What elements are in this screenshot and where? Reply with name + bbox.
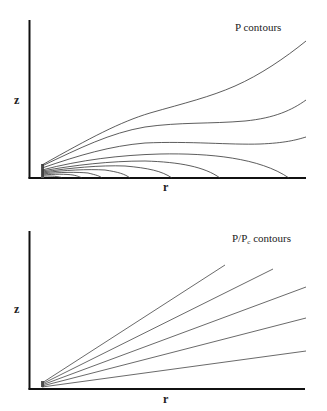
- z-axis-label: z: [14, 302, 19, 317]
- ray-1: [42, 265, 225, 383]
- ray-4: [42, 318, 306, 386]
- pc-contours-title: P/Pc contours: [232, 232, 291, 246]
- r-axis-label: r: [163, 392, 168, 407]
- title-rest: contours: [250, 232, 291, 244]
- ray-lines: [42, 265, 306, 387]
- ray-5: [42, 351, 306, 387]
- ray-2: [42, 269, 273, 384]
- ray-3: [42, 287, 306, 385]
- title-main: P/P: [232, 232, 247, 244]
- pc-contours-panel: P/Pc contours z r: [0, 0, 327, 411]
- pc-contours-plot: [0, 0, 327, 411]
